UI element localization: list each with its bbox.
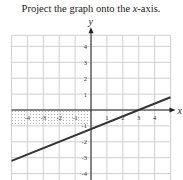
shaded-region xyxy=(12,110,92,126)
y-tick-label: -4 xyxy=(82,170,88,177)
x-tick-label: 4 xyxy=(153,114,157,121)
y-axis-label: y xyxy=(88,16,94,27)
y-axis-arrow-icon xyxy=(89,27,94,33)
x-axis-label: x xyxy=(177,105,183,116)
x-axis-arrow-icon xyxy=(170,108,176,113)
x-tick-label: 1 xyxy=(105,114,108,121)
y-tick-label: -2 xyxy=(82,138,87,145)
y-tick-label: -3 xyxy=(82,154,87,161)
x-tick-label: 3 xyxy=(137,114,140,121)
x-tick-label: -3 xyxy=(41,114,46,121)
x-tick-label: -2 xyxy=(56,114,61,121)
y-tick-label: 1 xyxy=(84,91,87,98)
x-tick-label: -1 xyxy=(72,114,77,121)
y-tick-label: -1 xyxy=(82,122,87,129)
x-tick-label: -4 xyxy=(25,114,31,121)
y-tick-label: 3 xyxy=(84,59,87,66)
y-tick-label: 2 xyxy=(84,75,87,82)
coordinate-plane: xy -4-3-2-112344321-1-2-3-4 xyxy=(0,0,182,180)
